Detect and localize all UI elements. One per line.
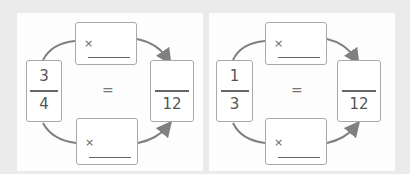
result-denominator: 12 [349,94,368,116]
problem-panel-2: 1 3 × × = 12 [209,13,395,171]
times-sign: × [274,37,283,50]
problem-panel-1: 3 4 × × = 12 [17,13,203,171]
given-numerator: 3 [39,66,49,88]
fraction-bar [342,90,376,91]
equals-sign: = [102,82,114,98]
answer-blank[interactable] [278,57,320,58]
equals-sign: = [291,82,303,98]
answer-blank[interactable] [88,57,130,58]
fraction-bar [221,90,249,91]
result-fraction[interactable]: 12 [150,60,194,122]
top-multiplier-box[interactable]: × [75,22,137,65]
result-fraction[interactable]: 12 [337,60,381,122]
times-sign: × [274,136,283,149]
fraction-bar [30,90,57,91]
bottom-multiplier-box[interactable]: × [265,118,327,165]
fraction-bar [155,90,189,91]
given-fraction: 3 4 [26,60,62,122]
given-denominator: 4 [39,94,49,116]
times-sign: × [84,37,93,50]
times-sign: × [85,136,94,149]
given-denominator: 3 [230,94,240,116]
result-denominator: 12 [162,94,181,116]
top-multiplier-box[interactable]: × [265,22,327,65]
answer-blank[interactable] [89,157,131,158]
bottom-multiplier-box[interactable]: × [76,118,138,165]
answer-blank[interactable] [278,157,320,158]
given-fraction: 1 3 [216,60,253,122]
given-numerator: 1 [230,66,240,88]
